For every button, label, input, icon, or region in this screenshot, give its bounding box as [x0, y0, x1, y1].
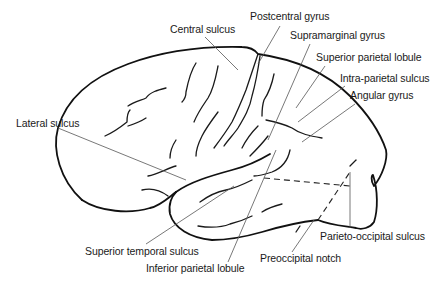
label-intra-parietal-sulcus: Intra-parietal sulcus [340, 72, 430, 84]
temporal-upper-outline [176, 154, 270, 192]
leader-angular-gyrus [302, 104, 355, 142]
parietal-sulcus-3 [242, 126, 258, 148]
frontal-lower-outline [82, 192, 176, 211]
parietal-sulcus-4 [250, 136, 268, 156]
leader-central-sulcus [205, 37, 238, 70]
temporal-sulcus-4 [296, 226, 300, 232]
label-lateral-sulcus: Lateral sulcus [16, 117, 79, 129]
label-angular-gyrus: Angular gyrus [350, 89, 413, 101]
label-parieto-occipital-sulcus: Parieto-occipital sulcus [320, 230, 425, 242]
label-inferior-parietal-lobule: Inferior parietal lobule [146, 262, 245, 274]
parietal-sulcus-2 [262, 74, 274, 116]
inferior-frontal-sulcus-2 [128, 118, 146, 126]
temporal-lobe-outline [169, 192, 318, 240]
label-superior-parietal-lobule: Superior parietal lobule [316, 51, 422, 63]
label-central-sulcus: Central sulcus [170, 23, 235, 35]
label-superior-temporal-sulcus: Superior temporal sulcus [85, 245, 199, 257]
frontal-sulcus-4 [196, 112, 218, 156]
label-postcentral-gyrus: Postcentral gyrus [250, 10, 329, 22]
label-supramarginal-gyrus: Supramarginal gyrus [290, 29, 385, 41]
inferior-frontal-sulcus [105, 110, 130, 136]
preoccipital-dashed-line [318, 172, 350, 220]
leader-supramarginal-gyrus [268, 44, 310, 140]
leader-superior-parietal-lobule [296, 66, 325, 108]
leader-lateral-sulcus [58, 128, 186, 180]
parieto-temporal-dashed-line [264, 178, 350, 186]
lateral-branch [142, 189, 168, 196]
leader-preoccipital-notch [292, 220, 314, 252]
leader-inferior-parietal-lobule [228, 150, 276, 262]
occipital-sulcus [350, 160, 356, 166]
temporal-sulcus-3 [262, 204, 282, 212]
intraparietal-sulcus-line [266, 120, 322, 138]
precentral-sulcus-upper [182, 63, 196, 102]
angular-sulcus [254, 150, 290, 176]
superior-frontal-sulcus [128, 88, 166, 106]
frontal-sulcus-3 [170, 140, 176, 158]
label-preoccipital-notch: Preoccipital notch [260, 252, 341, 264]
precentral-sulcus-lower [194, 66, 218, 122]
